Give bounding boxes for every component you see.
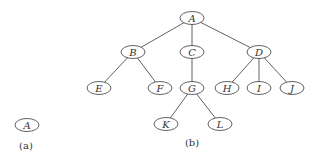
node-label: F: [156, 83, 165, 94]
node-label: A: [187, 13, 195, 24]
node-label: E: [94, 83, 103, 94]
node-label: J: [288, 83, 295, 94]
node-D: D: [247, 46, 271, 59]
caption-b: (b): [185, 137, 199, 148]
node-label: G: [188, 83, 196, 94]
tree-diagram: A (a) A B C D E F G: [0, 0, 310, 161]
node-F: F: [148, 82, 172, 95]
caption-a: (a): [19, 140, 33, 151]
node-label: L: [216, 119, 224, 130]
node-I: I: [247, 82, 271, 95]
node-L: L: [208, 118, 232, 131]
node-B: B: [121, 46, 145, 59]
node-A: A: [180, 12, 204, 25]
node-C: C: [180, 46, 204, 59]
node-label: D: [254, 47, 263, 58]
node-label: A: [22, 120, 30, 131]
panel-a: A (a): [15, 119, 39, 152]
node-a-A: A: [15, 119, 39, 132]
node-J: J: [280, 82, 304, 95]
node-label: B: [128, 47, 136, 58]
node-H: H: [215, 82, 239, 95]
node-label: C: [188, 47, 196, 58]
edge-A-D: [192, 18, 259, 52]
node-label: K: [161, 119, 170, 130]
edges: [99, 18, 292, 124]
panel-b: A B C D E F G H: [87, 12, 304, 149]
node-label: H: [222, 83, 232, 94]
node-G: G: [180, 82, 204, 95]
node-K: K: [154, 118, 178, 131]
edge-A-B: [133, 18, 192, 52]
node-E: E: [87, 82, 111, 95]
